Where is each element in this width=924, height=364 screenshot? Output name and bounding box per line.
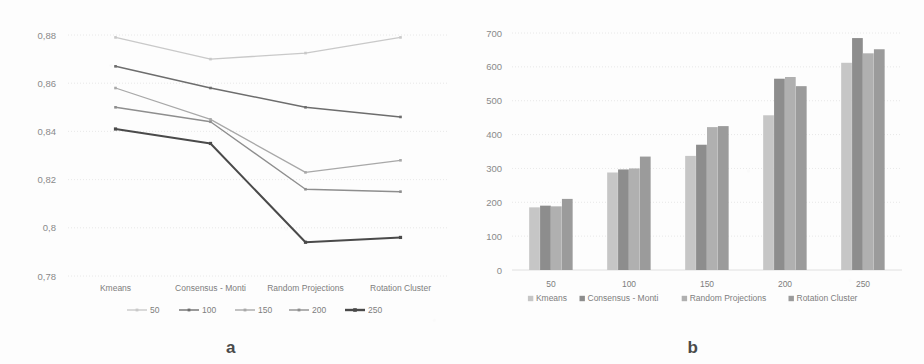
data-point-marker xyxy=(114,87,117,90)
legend-label-consensus-monti: Consensus - Monti xyxy=(588,293,659,303)
line-chart-svg: 0,880,860,840,820,80,78KmeansConsensus -… xyxy=(0,0,462,364)
legend-label-200: 200 xyxy=(312,305,326,315)
legend-marker-200 xyxy=(298,309,301,312)
data-point-marker xyxy=(399,36,402,39)
legend-marker-100 xyxy=(188,309,191,312)
y-axis-tick-label: 0,88 xyxy=(38,30,57,41)
line-series-50 xyxy=(116,37,401,59)
data-point-marker xyxy=(209,120,212,123)
bar-rotation-cluster-100 xyxy=(640,157,651,270)
bar-consensus-monti-250 xyxy=(852,38,863,270)
bar-random-projections-100 xyxy=(629,168,640,270)
data-point-marker xyxy=(304,171,307,174)
data-point-marker xyxy=(114,36,117,39)
bar-plot-area: 700600500400300200100050100150200250 xyxy=(486,28,902,290)
bar-kmeans-50 xyxy=(529,207,540,270)
bar-consensus-monti-100 xyxy=(618,169,629,270)
bar-chart-svg: 700600500400300200100050100150200250Kmea… xyxy=(462,0,924,364)
bar-random-projections-250 xyxy=(863,53,874,270)
data-point-marker xyxy=(209,118,212,121)
data-point-marker xyxy=(399,159,402,162)
bar-chart-legend: KmeansConsensus - MontiRandom Projection… xyxy=(528,293,858,303)
bar-consensus-monti-200 xyxy=(774,79,785,270)
y-axis-tick-label: 300 xyxy=(486,163,502,174)
data-point-marker xyxy=(304,52,307,55)
legend-swatch-kmeans xyxy=(528,296,533,301)
x-axis-category-label: 250 xyxy=(856,279,870,289)
data-point-marker xyxy=(209,87,212,90)
data-point-marker xyxy=(399,190,402,193)
bar-kmeans-250 xyxy=(841,63,852,270)
legend-label-150: 150 xyxy=(258,305,272,315)
bar-random-projections-200 xyxy=(785,77,796,270)
line-series-100 xyxy=(116,66,401,117)
data-point-marker xyxy=(114,65,117,68)
bar-rotation-cluster-50 xyxy=(562,199,573,270)
legend-swatch-random-projections xyxy=(682,296,687,301)
y-axis-tick-label: 600 xyxy=(486,61,502,72)
x-axis-category-label: Rotation Cluster xyxy=(370,283,431,293)
bar-rotation-cluster-150 xyxy=(718,126,729,270)
data-point-marker xyxy=(114,127,117,130)
legend-label-kmeans: Kmeans xyxy=(536,293,567,303)
bar-random-projections-150 xyxy=(707,127,718,270)
legend-label-50: 50 xyxy=(150,305,160,315)
legend-swatch-consensus-monti xyxy=(580,296,585,301)
y-axis-tick-label: 200 xyxy=(486,197,502,208)
data-point-marker xyxy=(399,116,402,119)
y-axis-tick-label: 0,78 xyxy=(38,271,57,282)
x-axis-category-label: Kmeans xyxy=(100,283,131,293)
panel-a-caption: a xyxy=(0,338,462,358)
legend-marker-50 xyxy=(136,309,139,312)
legend-marker-250 xyxy=(353,308,357,312)
data-point-marker xyxy=(114,106,117,109)
bar-kmeans-150 xyxy=(685,156,696,270)
line-series-150 xyxy=(116,88,401,172)
y-axis-tick-label: 0 xyxy=(497,265,502,276)
bar-kmeans-200 xyxy=(763,115,774,270)
legend-label-random-projections: Random Projections xyxy=(690,293,767,303)
bar-rotation-cluster-200 xyxy=(796,86,807,270)
data-point-marker xyxy=(304,188,307,191)
data-point-marker xyxy=(399,236,402,239)
bar-consensus-monti-50 xyxy=(540,206,551,270)
line-series-200 xyxy=(116,107,401,191)
panel-b-caption: b xyxy=(462,338,924,358)
y-axis-tick-label: 100 xyxy=(486,231,502,242)
line-plot-area: 0,880,860,840,820,80,78KmeansConsensus -… xyxy=(38,30,449,294)
legend-marker-150 xyxy=(244,309,247,312)
legend-label-rotation-cluster: Rotation Cluster xyxy=(797,293,858,303)
y-axis-tick-label: 0,82 xyxy=(38,174,57,185)
bar-kmeans-100 xyxy=(607,172,618,270)
legend-label-250: 250 xyxy=(368,305,382,315)
x-axis-category-label: 200 xyxy=(778,279,792,289)
x-axis-category-label: Random Projections xyxy=(267,283,344,293)
y-axis-tick-label: 0,86 xyxy=(38,78,57,89)
y-axis-tick-label: 700 xyxy=(486,28,502,39)
bar-rotation-cluster-250 xyxy=(874,49,885,270)
bar-consensus-monti-150 xyxy=(696,145,707,270)
x-axis-category-label: 150 xyxy=(700,279,714,289)
line-chart-panel: 0,880,860,840,820,80,78KmeansConsensus -… xyxy=(0,0,462,364)
y-axis-tick-label: 400 xyxy=(486,129,502,140)
bar-chart-panel: 700600500400300200100050100150200250Kmea… xyxy=(462,0,924,364)
y-axis-tick-label: 500 xyxy=(486,95,502,106)
data-point-marker xyxy=(209,142,212,145)
legend-label-100: 100 xyxy=(202,305,216,315)
x-axis-category-label: 50 xyxy=(546,279,556,289)
x-axis-category-label: Consensus - Monti xyxy=(175,283,246,293)
bar-random-projections-50 xyxy=(551,206,562,270)
figure-root: 0,880,860,840,820,80,78KmeansConsensus -… xyxy=(0,0,924,364)
legend-swatch-rotation-cluster xyxy=(789,296,794,301)
data-point-marker xyxy=(209,58,212,61)
y-axis-tick-label: 0,84 xyxy=(38,126,57,137)
data-point-marker xyxy=(304,241,307,244)
y-axis-tick-label: 0,8 xyxy=(43,222,56,233)
data-point-marker xyxy=(304,106,307,109)
x-axis-category-label: 100 xyxy=(622,279,636,289)
line-chart-legend: 50100150200250 xyxy=(127,305,382,315)
